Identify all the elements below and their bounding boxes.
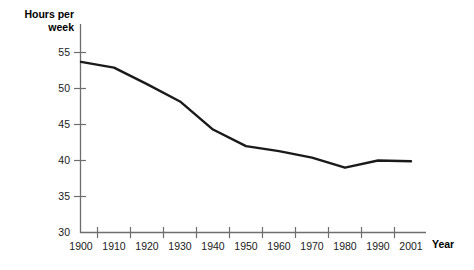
x-axis-title: Year bbox=[432, 238, 472, 251]
y-tick-label: 30 bbox=[44, 226, 70, 238]
x-tick-label: 2001 bbox=[391, 240, 431, 252]
plot-area bbox=[0, 0, 474, 270]
y-tick-label: 35 bbox=[44, 190, 70, 202]
data-series-line bbox=[81, 62, 411, 168]
line-chart-figure: Hours per week Year 55 50 45 40 35 30 19… bbox=[0, 0, 474, 270]
y-tick-label: 40 bbox=[44, 154, 70, 166]
y-tick-label: 50 bbox=[44, 82, 70, 94]
axis-lines bbox=[80, 24, 426, 233]
y-tick-label: 55 bbox=[44, 46, 70, 58]
y-axis-title: Hours per week bbox=[12, 8, 74, 33]
y-tick-label: 45 bbox=[44, 118, 70, 130]
